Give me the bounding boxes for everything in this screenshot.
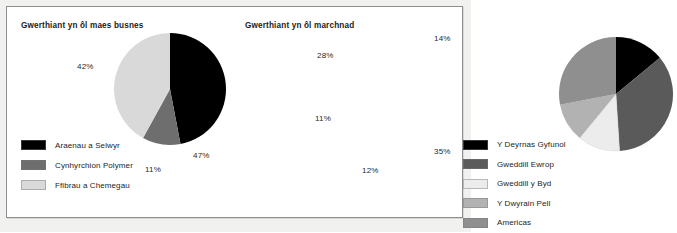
- chart-title-market: Gwerthiant yn ôl marchnad: [245, 21, 354, 30]
- legend-item-ffibrau[interactable]: Ffibrau a Chemegau: [21, 175, 133, 195]
- pie-label-gweddill-ewrop-pct: 35%: [434, 147, 451, 156]
- legend-swatch-cynhyrchion: [21, 160, 46, 170]
- pie-label-araenau-pct: 47%: [193, 151, 210, 160]
- chart-panel-business-area: Gwerthiant yn ôl maes busnes 47% 11% 42%: [7, 7, 235, 217]
- legend-label-gweddill-ewrop: Gweddill Ewrop: [497, 160, 554, 169]
- legend-label-ffibrau: Ffibrau a Chemegau: [55, 181, 130, 190]
- pie-label-americas-pct: 28%: [317, 51, 334, 60]
- legend-label-americas: Americas: [497, 218, 531, 227]
- legend-swatch-deyrnas-gyfunol: [463, 140, 488, 150]
- legend-swatch-dwyrain-pell: [463, 198, 488, 208]
- figure-frame: Gwerthiant yn ôl maes busnes 47% 11% 42%: [6, 6, 463, 218]
- pie-label-dwyrain-pell-pct: 11%: [315, 114, 331, 123]
- legend-label-gweddill-byd: Gweddill y Byd: [497, 179, 551, 188]
- legend-item-americas[interactable]: Americas: [463, 213, 566, 233]
- legend-item-dwyrain-pell[interactable]: Y Dwyrain Pell: [463, 194, 566, 214]
- pie-chart-market[interactable]: [554, 32, 677, 156]
- legend-label-deyrnas-gyfunol: Y Deyrnas Gyfunol: [497, 140, 566, 149]
- chart-panel-market: Gwerthiant yn ôl marchnad 14% 35: [229, 7, 464, 217]
- legend-label-araenau: Araenau a Selwyr: [55, 141, 120, 150]
- legend-business-area: Araenau a Selwyr Cynhyrchion Polymer Ffi…: [21, 135, 133, 195]
- legend-market: Y Deyrnas Gyfunol Gweddill Ewrop Gweddil…: [463, 135, 566, 233]
- legend-label-cynhyrchion: Cynhyrchion Polymer: [55, 161, 133, 170]
- legend-label-dwyrain-pell: Y Dwyrain Pell: [497, 199, 550, 208]
- pie-label-deyrnas-gyfunol-pct: 14%: [434, 34, 451, 43]
- pie-chart-business-area[interactable]: [108, 27, 232, 151]
- pie-slice-americas[interactable]: [559, 37, 616, 105]
- legend-item-deyrnas-gyfunol[interactable]: Y Deyrnas Gyfunol: [463, 135, 566, 155]
- legend-swatch-ffibrau: [21, 180, 46, 190]
- legend-swatch-americas: [463, 218, 488, 228]
- pie-label-gweddill-byd-pct: 12%: [362, 166, 379, 175]
- legend-swatch-gweddill-ewrop: [463, 159, 488, 169]
- legend-swatch-araenau: [21, 140, 46, 150]
- pie-label-cynhyrchion-pct: 11%: [145, 165, 161, 174]
- legend-item-cynhyrchion[interactable]: Cynhyrchion Polymer: [21, 155, 133, 175]
- legend-swatch-gweddill-byd: [463, 179, 488, 189]
- legend-item-gweddill-byd[interactable]: Gweddill y Byd: [463, 174, 566, 194]
- pie-slice-araenau[interactable]: [170, 33, 226, 144]
- legend-item-araenau[interactable]: Araenau a Selwyr: [21, 135, 133, 155]
- pie-label-ffibrau-pct: 42%: [77, 62, 94, 71]
- legend-item-gweddill-ewrop[interactable]: Gweddill Ewrop: [463, 155, 566, 175]
